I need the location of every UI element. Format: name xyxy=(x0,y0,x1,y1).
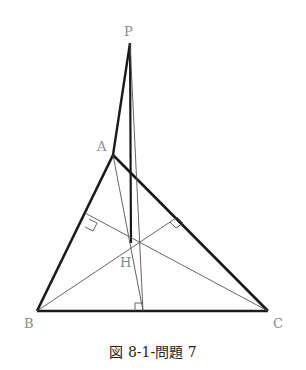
label-B: B xyxy=(24,317,34,330)
altitude-A xyxy=(113,155,143,311)
label-H: H xyxy=(120,256,131,269)
label-A: A xyxy=(97,140,106,153)
altitude-B xyxy=(37,218,176,311)
label-P: P xyxy=(124,25,133,38)
right-angle-mark-AB xyxy=(85,219,97,231)
edge-PA xyxy=(113,43,130,155)
geometry-figure xyxy=(0,0,306,370)
label-C: C xyxy=(273,317,283,330)
line-P-foot xyxy=(130,43,143,311)
edge-PH xyxy=(130,43,131,243)
edge-AB xyxy=(37,155,113,311)
figure-caption: 図 8-1-問題 7 xyxy=(0,341,306,361)
